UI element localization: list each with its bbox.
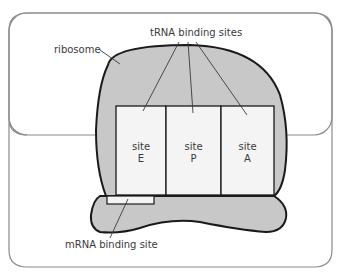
diagram-canvas: ribosome tRNA binding sites mRNA binding… (0, 0, 340, 273)
site-a-label: site A (221, 141, 274, 165)
ribosome-label: ribosome (54, 45, 101, 55)
mrna-binding-site-label: mRNA binding site (65, 240, 158, 250)
site-p-label: site P (166, 141, 221, 165)
ribosome-diagram (0, 0, 340, 273)
mrna-binding-slot (107, 196, 154, 204)
trna-binding-sites-label: tRNA binding sites (150, 28, 242, 38)
site-e-label: site E (116, 141, 166, 165)
